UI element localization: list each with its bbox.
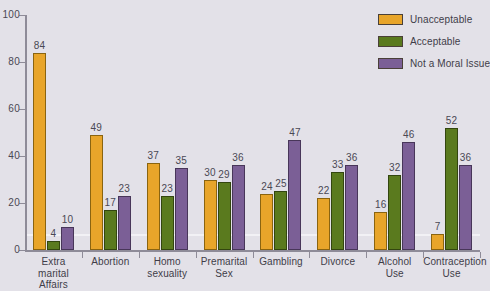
bar-value-label: 37 xyxy=(147,150,159,161)
bar-group: 223336 xyxy=(309,15,366,250)
bar: 4 xyxy=(47,241,60,250)
x-category-label: Divorce xyxy=(309,256,366,268)
bar: 10 xyxy=(61,227,74,251)
bar: 23 xyxy=(161,196,174,250)
bar: 29 xyxy=(218,182,231,250)
bar: 24 xyxy=(260,194,273,250)
bar-value-label: 47 xyxy=(289,127,301,138)
bar-value-label: 22 xyxy=(318,185,330,196)
bar-group: 302936 xyxy=(196,15,253,250)
bar-group: 242547 xyxy=(253,15,310,250)
bar-value-label: 32 xyxy=(389,162,401,173)
bar: 35 xyxy=(175,168,188,250)
x-category-label: AlcoholUse xyxy=(366,256,423,279)
bar-group: 491723 xyxy=(82,15,139,250)
x-category-label: Extra maritalAffairs xyxy=(25,256,82,291)
bar-value-label: 49 xyxy=(91,122,103,133)
bar-value-label: 29 xyxy=(218,169,230,180)
bar: 52 xyxy=(445,128,458,250)
y-tick-label: 60 xyxy=(0,103,20,114)
bar: 37 xyxy=(147,163,160,250)
bar: 33 xyxy=(331,172,344,250)
bar: 46 xyxy=(402,142,415,250)
bar-value-label: 84 xyxy=(34,40,46,51)
legend-label-unacceptable: Unacceptable xyxy=(410,14,472,25)
bar-value-label: 7 xyxy=(435,221,441,232)
x-category-label: Homosexuality xyxy=(139,256,196,279)
bar-group: 372335 xyxy=(139,15,196,250)
x-category-label: PremaritalSex xyxy=(196,256,253,279)
bar-value-label: 4 xyxy=(51,228,57,239)
y-tick-label: 80 xyxy=(0,56,20,67)
legend-item-not-a-moral-issue: Not a Moral Issue xyxy=(378,56,484,71)
y-tick-label: 40 xyxy=(0,150,20,161)
bar: 17 xyxy=(104,210,117,250)
bar: 22 xyxy=(317,198,330,250)
bar-value-label: 23 xyxy=(119,183,131,194)
x-category-label: ContraceptionUse xyxy=(423,256,480,279)
bar-value-label: 33 xyxy=(332,159,344,170)
bar-value-label: 46 xyxy=(403,129,415,140)
bar-value-label: 35 xyxy=(175,155,187,166)
bar: 49 xyxy=(90,135,103,250)
bar: 23 xyxy=(118,196,131,250)
legend-item-acceptable: Acceptable xyxy=(378,34,484,49)
y-tick-label: 100 xyxy=(0,9,20,20)
bar: 36 xyxy=(459,165,472,250)
bar: 16 xyxy=(374,212,387,250)
bar-value-label: 23 xyxy=(161,183,173,194)
bar-value-label: 52 xyxy=(446,115,458,126)
legend-item-unacceptable: Unacceptable xyxy=(378,12,484,27)
bar-value-label: 24 xyxy=(261,181,273,192)
bar: 36 xyxy=(232,165,245,250)
bar: 7 xyxy=(431,234,444,250)
bar-value-label: 30 xyxy=(204,167,216,178)
bar-value-label: 36 xyxy=(232,152,244,163)
legend-swatch-acceptable xyxy=(378,36,403,47)
legend-label-not-a-moral-issue: Not a Moral Issue xyxy=(410,58,490,69)
bar: 32 xyxy=(388,175,401,250)
bar: 47 xyxy=(288,140,301,250)
bar: 25 xyxy=(274,191,287,250)
bar-value-label: 25 xyxy=(275,178,287,189)
bar-value-label: 17 xyxy=(105,197,117,208)
bar-group: 84410 xyxy=(25,15,82,250)
x-category-label: Gambling xyxy=(253,256,310,268)
bar-value-label: 36 xyxy=(460,152,472,163)
legend-swatch-unacceptable xyxy=(378,14,403,25)
legend-swatch-not-a-moral-issue xyxy=(378,58,403,69)
legend: Unacceptable Acceptable Not a Moral Issu… xyxy=(378,12,484,78)
legend-label-acceptable: Acceptable xyxy=(410,36,460,47)
bar: 30 xyxy=(204,180,217,251)
bar: 84 xyxy=(33,53,46,250)
x-category-label: Abortion xyxy=(82,256,139,268)
bar-value-label: 10 xyxy=(62,214,74,225)
bar: 36 xyxy=(345,165,358,250)
bar-value-label: 16 xyxy=(375,199,387,210)
y-tick-label: 20 xyxy=(0,197,20,208)
y-tick-label: 0 xyxy=(0,244,20,255)
bar-value-label: 36 xyxy=(346,152,358,163)
